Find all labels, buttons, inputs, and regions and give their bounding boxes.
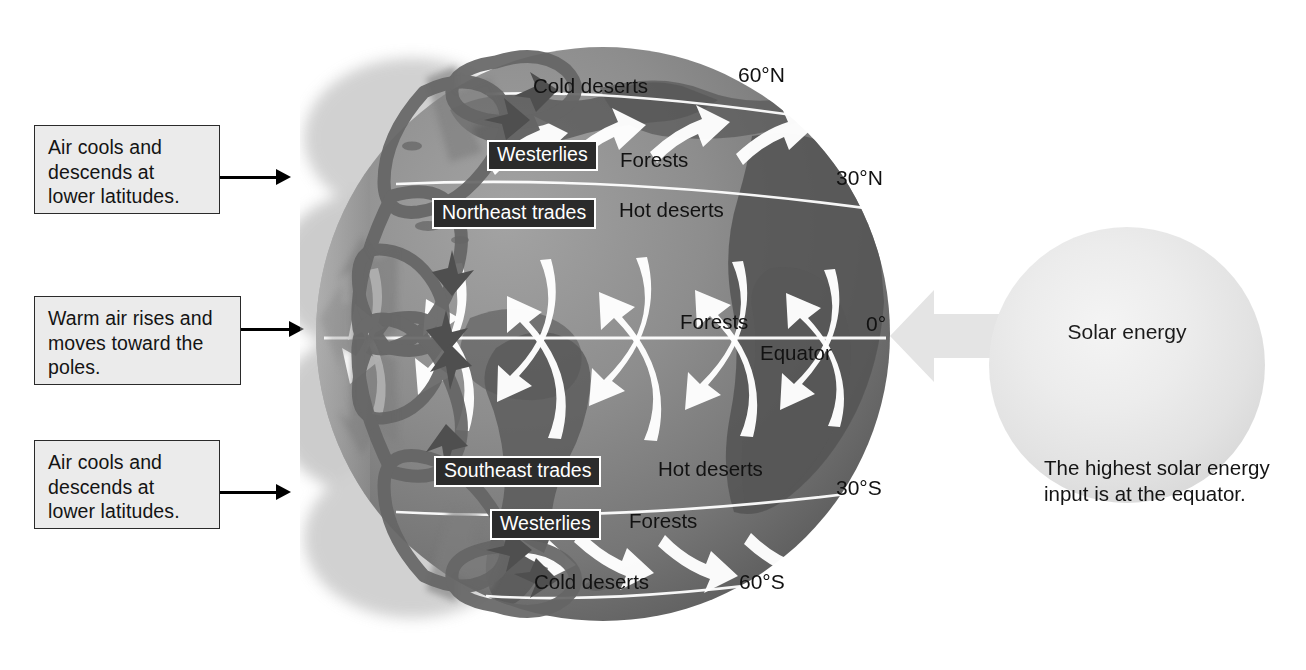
biome-label-cold-deserts-south: Cold deserts [534,570,649,594]
leader-arrow-south [276,484,291,500]
latitude-label-60n: 60°N [738,63,785,87]
biome-label-forests-equator: Forests [680,310,748,334]
callout-line: poles. [48,355,228,380]
earth-globe [300,18,900,650]
wind-label-westerlies-north: Westerlies [487,140,598,171]
callout-line: descends at [48,475,207,500]
biome-label-hot-deserts-north: Hot deserts [619,198,724,222]
leader-line-south [220,491,278,494]
wind-label-northeast-trades: Northeast trades [432,198,596,229]
sun-caption: The highest solar energy input is at the… [1044,455,1296,507]
callout-line: descends at [48,160,207,185]
diagram-canvas: Air cools and descends at lower latitude… [0,0,1306,670]
wind-label-westerlies-south: Westerlies [490,509,601,540]
callout-air-cools-south: Air cools and descends at lower latitude… [34,440,220,529]
sun-label: Solar energy [989,320,1265,344]
leader-arrow-north [276,169,291,185]
sun-caption-line: input is at the equator. [1044,481,1296,507]
callout-line: lower latitudes. [48,184,207,209]
latitude-label-30s: 30°S [836,476,882,500]
biome-label-cold-deserts-north: Cold deserts [533,74,648,98]
biome-label-hot-deserts-south: Hot deserts [658,457,763,481]
latitude-label-30n: 30°N [836,166,883,190]
equator-label: Equator [760,341,832,365]
leader-line-equator [241,328,291,331]
callout-warm-air-rises: Warm air rises and moves toward the pole… [34,296,241,385]
leader-line-north [220,176,278,179]
latitude-label-0: 0° [866,312,886,336]
biome-label-forests-south: Forests [629,509,697,533]
sun-caption-line: The highest solar energy [1044,455,1296,481]
callout-line: Air cools and [48,135,207,160]
biome-label-forests-north: Forests [620,148,688,172]
callout-air-cools-north: Air cools and descends at lower latitude… [34,125,220,214]
latitude-label-60s: 60°S [739,570,785,594]
callout-line: Air cools and [48,450,207,475]
wind-label-southeast-trades: Southeast trades [434,456,601,487]
callout-line: lower latitudes. [48,499,207,524]
callout-line: Warm air rises and [48,306,228,331]
callout-line: moves toward the [48,331,228,356]
